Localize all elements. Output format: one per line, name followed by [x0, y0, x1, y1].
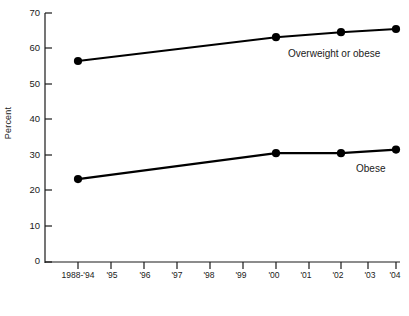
- data-point-marker: [272, 33, 280, 41]
- series-overweight-or-obese: [74, 25, 400, 65]
- data-point-marker: [392, 145, 400, 153]
- data-point-marker: [392, 25, 400, 33]
- plot-area: [0, 0, 409, 316]
- data-point-marker: [337, 28, 345, 36]
- data-point-marker: [74, 175, 82, 183]
- series-line: [78, 150, 396, 180]
- line-chart: Percent 70 60 50 40 30 20 10 0 1988-'94 …: [0, 0, 409, 316]
- data-point-marker: [272, 149, 280, 157]
- series-line: [78, 29, 396, 61]
- y-axis: [45, 13, 52, 263]
- data-point-marker: [74, 57, 82, 65]
- y-axis-ticks: [45, 13, 52, 262]
- x-axis-ticks: [78, 262, 396, 269]
- series-obese: [74, 145, 400, 183]
- data-point-marker: [337, 149, 345, 157]
- x-axis: [45, 262, 400, 269]
